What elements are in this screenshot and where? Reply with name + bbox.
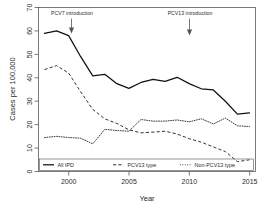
line-chart-svg: 0 10 20 30 40 50 60 70 Cases per 100,000… xyxy=(0,0,265,208)
legend-label-pcv13-type: PCV13 type xyxy=(128,162,157,168)
x-tick-2015: 2015 xyxy=(242,178,258,185)
x-tick-2005: 2005 xyxy=(121,178,137,185)
y-tick-70: 70 xyxy=(26,4,33,12)
y-tick-20: 20 xyxy=(26,121,33,129)
y-tick-0: 0 xyxy=(26,169,33,173)
legend-label-all-ipd: All IPD xyxy=(58,162,75,168)
y-axis-title: Cases per 100,000 xyxy=(8,57,17,120)
annotation-pcv13-label: PCV13 introduction xyxy=(168,10,213,16)
chart-figure: 0 10 20 30 40 50 60 70 Cases per 100,000… xyxy=(0,0,265,208)
y-tick-10: 10 xyxy=(26,144,33,152)
x-tick-2000: 2000 xyxy=(61,178,77,185)
legend-label-non-pcv13-type: Non-PCV13 type xyxy=(195,162,235,168)
chart-background xyxy=(0,0,265,208)
x-axis-title: Year xyxy=(139,194,155,203)
annotation-pcv7-label: PCV7 introduction xyxy=(51,10,93,16)
x-tick-2010: 2010 xyxy=(182,178,198,185)
y-tick-60: 60 xyxy=(26,27,33,35)
y-tick-40: 40 xyxy=(26,74,33,82)
y-tick-50: 50 xyxy=(26,50,33,58)
y-tick-30: 30 xyxy=(26,97,33,105)
